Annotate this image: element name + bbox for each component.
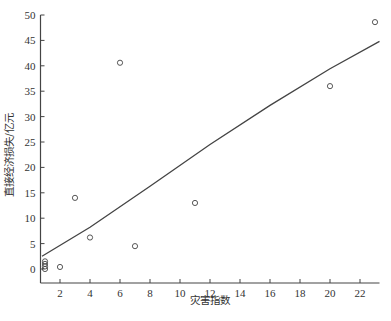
y-tick-label: 10: [25, 212, 37, 224]
data-point: [87, 235, 92, 240]
x-tick-label: 14: [235, 287, 247, 299]
x-tick-label: 8: [147, 287, 153, 299]
x-tick-label: 10: [175, 287, 187, 299]
y-tick-label: 20: [25, 161, 37, 173]
x-tick-label: 2: [57, 287, 63, 299]
y-axis-title: 直接经济损失/亿元: [3, 112, 15, 197]
data-point: [117, 60, 122, 65]
x-tick-label: 22: [355, 287, 366, 299]
axes: 05101520253035404550246810121416182022: [25, 9, 380, 299]
x-tick-label: 18: [295, 287, 307, 299]
x-tick-label: 16: [265, 287, 277, 299]
y-tick-label: 25: [25, 136, 37, 148]
y-tick-label: 0: [30, 263, 36, 275]
y-tick-label: 50: [25, 9, 37, 21]
x-tick-label: 6: [117, 287, 123, 299]
x-tick-label: 4: [87, 287, 93, 299]
data-point: [72, 195, 77, 200]
y-tick-label: 15: [25, 187, 37, 199]
y-tick-label: 35: [25, 85, 37, 97]
scatter-chart: 05101520253035404550246810121416182022 灾…: [0, 0, 391, 321]
y-tick-label: 40: [25, 60, 37, 72]
data-point: [57, 264, 62, 269]
data-point: [132, 244, 137, 249]
x-tick-label: 20: [325, 287, 337, 299]
data-point: [327, 84, 332, 89]
data-point: [372, 20, 377, 25]
data-point: [192, 200, 197, 205]
plot-area: [42, 20, 380, 272]
y-tick-label: 5: [30, 238, 36, 250]
x-axis-title: 灾害指数: [190, 294, 231, 306]
fit-line: [42, 41, 380, 256]
y-tick-label: 30: [25, 111, 37, 123]
y-tick-label: 45: [25, 34, 37, 46]
